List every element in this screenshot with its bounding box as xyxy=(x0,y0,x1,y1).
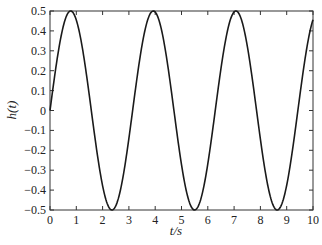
y-tick-label: −0.3 xyxy=(24,163,46,177)
y-tick-label: 0.5 xyxy=(31,4,46,18)
x-tick-label: 9 xyxy=(284,213,290,227)
y-tick-label: 0 xyxy=(40,104,46,118)
x-tick-label: 2 xyxy=(100,213,106,227)
y-tick-label: −0.2 xyxy=(24,143,46,157)
x-tick-label: 4 xyxy=(152,213,158,227)
plot-border xyxy=(50,11,313,210)
h-of-t-curve xyxy=(50,11,313,210)
x-axis-ticks: 012345678910 xyxy=(47,11,319,227)
x-tick-label: 0 xyxy=(47,213,53,227)
y-tick-label: 0.3 xyxy=(31,44,46,58)
x-tick-label: 10 xyxy=(307,213,319,227)
y-axis-label: h(t) xyxy=(4,101,19,120)
y-tick-label: −0.4 xyxy=(24,183,46,197)
y-tick-label: 0.1 xyxy=(31,84,46,98)
y-tick-label: 0.4 xyxy=(31,24,46,38)
y-tick-label: −0.1 xyxy=(24,123,46,137)
x-tick-label: 8 xyxy=(257,213,263,227)
chart: 012345678910 0.50.40.30.20.10−0.1−0.2−0.… xyxy=(0,0,322,245)
x-axis-label: t/s xyxy=(170,223,182,238)
x-tick-label: 6 xyxy=(205,213,211,227)
y-tick-label: 0.2 xyxy=(31,64,46,78)
x-tick-label: 1 xyxy=(73,213,79,227)
x-tick-label: 3 xyxy=(126,213,132,227)
y-axis-ticks: 0.50.40.30.20.10−0.1−0.2−0.3−0.4−0.5 xyxy=(24,4,313,217)
x-tick-label: 7 xyxy=(231,213,237,227)
y-tick-label: −0.5 xyxy=(24,203,46,217)
plot-frame xyxy=(50,11,313,210)
